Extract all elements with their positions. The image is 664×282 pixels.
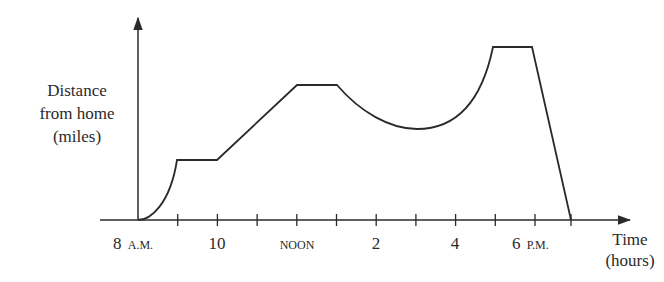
- distance-time-chart: Distance from home (miles) 8 A.M. 10 NOO…: [0, 0, 664, 282]
- y-axis-label-line-1: Distance: [47, 81, 106, 100]
- y-axis-label-line-3: (miles): [53, 127, 101, 146]
- tick-label-6pm: 6 P.M.: [512, 234, 549, 253]
- distance-curve: [138, 47, 571, 220]
- tick-label-4: 4: [451, 234, 460, 253]
- x-axis-label-line-2: (hours): [605, 251, 654, 270]
- y-axis-label-line-2: from home: [39, 104, 114, 123]
- tick-label-2: 2: [372, 234, 381, 253]
- x-axis-label-line-1: Time: [612, 230, 647, 249]
- tick-label-10: 10: [209, 234, 226, 253]
- tick-label-noon: NOON: [280, 238, 315, 252]
- tick-label-8am: 8 A.M.: [113, 234, 153, 253]
